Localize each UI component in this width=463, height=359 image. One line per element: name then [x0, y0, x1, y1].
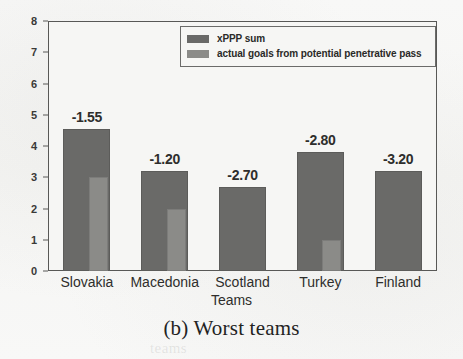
- chart-legend: xPPP sum actual goals from potential pen…: [180, 26, 436, 67]
- bar-value-label-scotland: -2.70: [227, 167, 257, 183]
- x-axis-tick-labels: SlovakiaMacedoniaScotlandTurkeyFinland: [48, 274, 437, 294]
- figure-caption: (b) Worst teams: [0, 316, 463, 341]
- y-tick-label-2: 2: [31, 203, 37, 215]
- y-tick-label-6: 6: [31, 78, 37, 90]
- y-tick-label-4: 4: [31, 140, 37, 152]
- bar-actual-goals-macedonia[interactable]: [167, 209, 186, 272]
- y-tick-label-7: 7: [31, 46, 37, 58]
- y-tick-label-0: 0: [31, 265, 37, 277]
- x-tick-label-macedonia: Macedonia: [130, 274, 199, 290]
- y-axis: 012345678: [0, 21, 48, 271]
- legend-swatch-icon-xppp-sum: [187, 35, 209, 43]
- bar-xppp-sum-scotland[interactable]: [219, 187, 266, 271]
- y-tick-label-3: 3: [31, 171, 37, 183]
- bar-value-label-turkey: -2.80: [305, 132, 335, 148]
- x-tick-label-slovakia: Slovakia: [60, 274, 113, 290]
- bar-actual-goals-slovakia[interactable]: [89, 177, 108, 271]
- y-tick-label-1: 1: [31, 234, 37, 246]
- bar-value-label-macedonia: -1.20: [149, 151, 179, 167]
- legend-entry-xppp-sum: xPPP sum: [187, 31, 429, 46]
- legend-entry-actual-goals: actual goals from potential penetrative …: [187, 46, 429, 61]
- x-tick-label-scotland: Scotland: [215, 274, 269, 290]
- x-axis-title: Teams: [0, 292, 463, 308]
- y-tick-label-8: 8: [31, 15, 37, 27]
- legend-swatch-icon-actual-goals: [187, 50, 209, 58]
- bar-value-label-finland: -3.20: [383, 151, 413, 167]
- y-tick-label-5: 5: [31, 109, 37, 121]
- bar-actual-goals-turkey[interactable]: [322, 240, 341, 271]
- x-tick-label-finland: Finland: [375, 274, 421, 290]
- bar-xppp-sum-finland[interactable]: [375, 171, 422, 271]
- legend-label-actual-goals: actual goals from potential penetrative …: [217, 48, 422, 59]
- bar-group-slovakia[interactable]: -1.55: [63, 21, 110, 271]
- legend-label-xppp-sum: xPPP sum: [217, 33, 265, 44]
- bar-value-label-slovakia: -1.55: [72, 109, 102, 125]
- bar-chart-figure: 012345678 -1.55-1.20-2.70-2.80-3.20 Slov…: [0, 0, 463, 359]
- x-tick-label-turkey: Turkey: [299, 274, 341, 290]
